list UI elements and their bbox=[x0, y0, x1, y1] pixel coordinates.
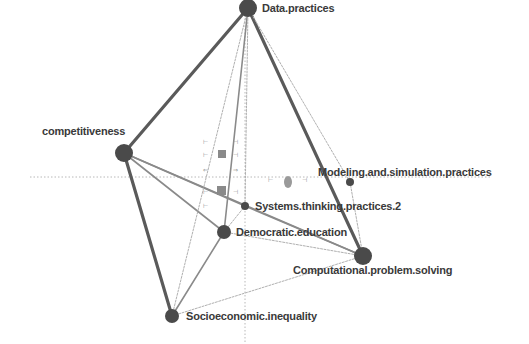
glyph-arrow: ⇒ bbox=[233, 166, 238, 173]
glyph-arrow: ⊢ bbox=[203, 202, 208, 209]
edge-data-democratic bbox=[224, 8, 248, 232]
node-label-competitiveness: competitiveness bbox=[42, 125, 125, 137]
node-systems[interactable] bbox=[241, 202, 249, 210]
edge-data-modeling bbox=[248, 8, 350, 182]
edge-data-computational bbox=[248, 8, 363, 256]
glyph-arrow: ⊣ bbox=[233, 151, 238, 158]
center-glyph-cluster: ⊢ ⊢ ⇐ ⊢ ⊢ ⊣ ⊣ ⇒ ⊣ ⊢ ⊣ bbox=[203, 138, 307, 209]
node-label-democratic: Democratic.education bbox=[236, 226, 347, 238]
glyph-arrow: ⊣ bbox=[302, 176, 307, 183]
glyph-arrow: ⊢ bbox=[268, 176, 273, 183]
node-democratic[interactable] bbox=[217, 225, 231, 239]
node-label-data: Data.practices bbox=[262, 2, 334, 14]
glyph-ellipse bbox=[284, 176, 292, 188]
node-modeling[interactable] bbox=[346, 178, 354, 186]
node-label-socioeconomic: Socioeconomic.inequality bbox=[186, 310, 318, 322]
node-label-computational: Computational.problem.solving bbox=[293, 264, 452, 276]
node-computational[interactable] bbox=[354, 247, 372, 265]
node-label-systems: Systems.thinking.practices.2 bbox=[255, 200, 401, 212]
node-socioeconomic[interactable] bbox=[165, 309, 179, 323]
edge-competitiveness-socioeconomic bbox=[124, 153, 172, 316]
glyph-arrow: ⊢ bbox=[203, 151, 208, 158]
edge-democratic-socioeconomic bbox=[172, 232, 224, 316]
glyph-square bbox=[218, 150, 226, 158]
node-label-modeling: Modeling.and.simulation.practices bbox=[318, 166, 492, 178]
network-diagram: ⊢ ⊢ ⇐ ⊢ ⊢ ⊣ ⊣ ⇒ ⊣ ⊢ ⊣ Data.practicescomp… bbox=[0, 0, 529, 344]
glyph-arrow: ⊣ bbox=[233, 188, 238, 195]
node-competitiveness[interactable] bbox=[115, 144, 133, 162]
glyph-arrow: ⊢ bbox=[203, 138, 208, 145]
edge-data-competitiveness bbox=[124, 8, 248, 153]
